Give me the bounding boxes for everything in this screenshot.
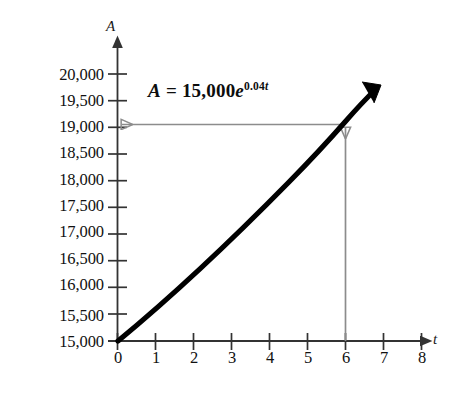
x-axis — [108, 333, 422, 350]
exponential-curve — [118, 82, 381, 341]
y-axis — [108, 46, 127, 341]
chart-canvas — [0, 0, 462, 395]
exponential-growth-chart: 20,000 19,500 19,000 18,500 18,000 17,50… — [0, 0, 462, 395]
curve-path — [118, 89, 376, 341]
